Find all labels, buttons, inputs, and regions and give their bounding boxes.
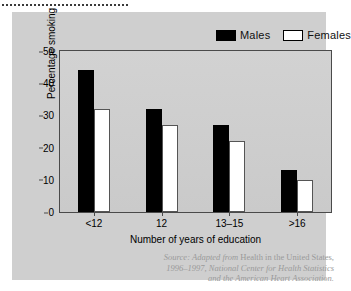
y-tick-label-20: 20 — [43, 142, 60, 153]
legend-label-females: Females — [307, 29, 351, 41]
bar-group — [145, 51, 179, 212]
bar-males-13–15 — [213, 125, 229, 212]
y-tick-mark-40 — [39, 83, 43, 84]
x-tick-mark-1 — [162, 212, 163, 216]
y-tick-label-0: 0 — [48, 207, 60, 218]
bar-group — [280, 51, 314, 212]
legend-swatch-females — [283, 30, 303, 41]
plot-frame: Percentage smoking 01020304050<121213–15… — [59, 50, 332, 213]
legend-label-males: Males — [240, 29, 270, 41]
x-tick-mark-3 — [297, 212, 298, 216]
chart-legend: MalesFemales — [216, 29, 351, 41]
plot-area: 01020304050<121213–15>16 — [60, 51, 331, 212]
bar-females-13–15 — [229, 141, 245, 212]
bar-group — [77, 51, 111, 212]
y-tick-mark-0 — [44, 212, 48, 213]
bar-males->16 — [281, 170, 297, 212]
source-line-3: and the American Heart Association. — [112, 273, 334, 284]
source-line-2: 1996–1997, National Center for Health St… — [112, 263, 334, 274]
bar-females->16 — [297, 180, 313, 212]
source-title: Health in the United States, — [240, 252, 334, 262]
x-tick-label-1: 12 — [156, 218, 167, 229]
y-tick-mark-10 — [39, 180, 43, 181]
x-tick-mark-0 — [94, 212, 95, 216]
x-tick-mark-2 — [229, 212, 230, 216]
source-line-1: Source: Adapted from Health in the Unite… — [112, 252, 334, 263]
x-tick-label-3: >16 — [289, 218, 306, 229]
y-tick-label-40: 40 — [43, 78, 60, 89]
bar-males-12 — [146, 109, 162, 212]
legend-entry-males: Males — [216, 29, 270, 41]
source-note: Source: Adapted from Health in the Unite… — [112, 252, 334, 284]
x-tick-label-2: 13–15 — [215, 218, 243, 229]
y-tick-mark-30 — [39, 115, 43, 116]
bar-males-<12 — [78, 70, 94, 212]
bar-group — [212, 51, 246, 212]
bar-females-12 — [162, 125, 178, 212]
bar-females-<12 — [94, 109, 110, 212]
y-tick-label-50: 50 — [43, 46, 60, 57]
y-tick-label-30: 30 — [43, 110, 60, 121]
y-tick-label-10: 10 — [43, 174, 60, 185]
figure-panel: MalesFemales Percentage smoking 01020304… — [12, 12, 326, 280]
legend-swatch-males — [216, 30, 236, 41]
x-axis-title: Number of years of education — [59, 234, 332, 245]
source-label: Source: Adapted from — [164, 252, 240, 262]
legend-entry-females: Females — [283, 29, 351, 41]
top-dotted-rule — [2, 4, 130, 6]
y-tick-mark-50 — [39, 51, 43, 52]
y-tick-mark-20 — [39, 148, 43, 149]
x-tick-label-0: <12 — [85, 218, 102, 229]
